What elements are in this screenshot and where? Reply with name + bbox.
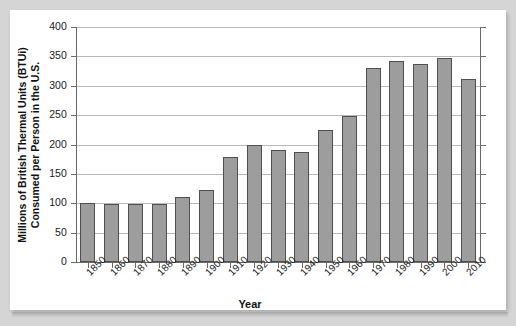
bar <box>389 61 404 263</box>
y-axis-tick <box>71 86 76 87</box>
bar <box>199 190 214 262</box>
y-axis-tick-label: 0 <box>61 255 67 267</box>
plot-area <box>76 27 480 262</box>
y-axis-tick <box>71 174 76 175</box>
y-axis-tick <box>71 115 76 116</box>
y-axis-title: Millions of British Thermal Units (BTUi)… <box>14 27 44 263</box>
y-axis-tick-label: 100 <box>49 196 67 208</box>
y-axis-title-line1: Millions of British Thermal Units (BTUi) <box>16 47 28 242</box>
bar <box>366 68 381 262</box>
y-axis-tick-label: 250 <box>49 108 67 120</box>
y-axis-tick-right <box>481 174 486 175</box>
y-axis-tick <box>71 233 76 234</box>
y-axis-tick <box>71 203 76 204</box>
page-background: Millions of British Thermal Units (BTUi)… <box>0 0 516 326</box>
bar <box>294 152 309 262</box>
x-axis-title-text: Year <box>238 298 261 310</box>
y-axis-tick-right <box>481 233 486 234</box>
bar <box>128 204 143 262</box>
bar <box>461 79 476 262</box>
bar-chart: Millions of British Thermal Units (BTUi)… <box>0 0 516 326</box>
bar <box>413 64 428 262</box>
y-axis-tick-right <box>481 27 486 28</box>
y-axis-tick-right <box>481 145 486 146</box>
gridline <box>76 27 480 28</box>
y-axis-tick-label: 350 <box>49 49 67 61</box>
y-axis-tick-label: 150 <box>49 167 67 179</box>
x-axis-title: Year <box>0 298 516 310</box>
y-axis-tick <box>71 27 76 28</box>
y-axis-title-line2: Consumed per Person in the U.S. <box>29 47 42 242</box>
y-axis-tick <box>71 262 76 263</box>
y-axis-tick-right <box>481 56 486 57</box>
y-axis-tick-label: 200 <box>49 138 67 150</box>
bar <box>271 150 286 262</box>
bar <box>175 197 190 262</box>
bar <box>152 204 167 262</box>
bar <box>104 204 119 262</box>
y-axis-tick <box>71 145 76 146</box>
bar <box>318 130 333 262</box>
y-axis-tick-label: 400 <box>49 20 67 32</box>
bar <box>80 203 95 262</box>
y-axis-tick-label: 50 <box>55 226 67 238</box>
y-axis-line <box>76 27 77 263</box>
bar <box>437 58 452 262</box>
y-axis-tick-right <box>481 203 486 204</box>
bar <box>223 157 238 262</box>
bar <box>342 116 357 262</box>
gridline <box>76 56 480 57</box>
y-axis-tick-label: 300 <box>49 79 67 91</box>
bar <box>247 145 262 263</box>
y-axis-tick-right <box>481 115 486 116</box>
y-axis-tick <box>71 56 76 57</box>
y-axis-tick-right <box>481 86 486 87</box>
